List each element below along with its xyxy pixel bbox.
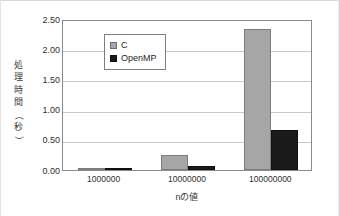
bar-chart-figure: 処 理 時 間 （ 秒 ） 0.000.501.001.502.002.50 C… — [0, 0, 339, 216]
y-axis-tick-label-4: 2.00 — [20, 46, 60, 55]
y-axis-tick-label-5: 2.50 — [20, 16, 60, 25]
bar-c-10000000 — [161, 155, 188, 170]
bar-group-100000000 — [244, 21, 298, 170]
y-axis-tick-label-1: 0.50 — [20, 136, 60, 145]
x-axis-tick-label-1000000: 1000000 — [62, 174, 145, 184]
bar-openmp-100000000 — [271, 130, 298, 170]
y-axis-tick-label-2: 1.00 — [20, 106, 60, 115]
x-axis-title: nの値 — [62, 192, 312, 202]
legend-swatch-c-icon — [110, 42, 117, 49]
legend-swatch-openmp-icon — [110, 55, 117, 62]
bar-openmp-1000000 — [105, 168, 132, 170]
legend-label-openmp: OpenMP — [121, 54, 157, 63]
bar-c-100000000 — [244, 29, 271, 170]
legend-item-openmp: OpenMP — [110, 52, 157, 65]
bar-openmp-10000000 — [188, 166, 215, 170]
x-axis-tick-label-100000000: 100000000 — [229, 174, 312, 184]
bar-c-1000000 — [78, 168, 105, 170]
legend-label-c: C — [121, 41, 128, 50]
y-axis-tick-label-0: 0.00 — [20, 167, 60, 176]
bar-group-10000000 — [161, 21, 215, 170]
y-axis-tick-label-3: 1.50 — [20, 76, 60, 85]
scan-edge-left — [0, 0, 1, 216]
y-axis-tick-labels: 0.000.501.001.502.002.50 — [18, 0, 60, 216]
x-axis-tick-label-10000000: 10000000 — [145, 174, 228, 184]
legend-item-c: C — [110, 39, 157, 52]
bar-series-container — [63, 21, 311, 170]
plot-area — [62, 20, 312, 171]
legend: C OpenMP — [104, 34, 166, 70]
x-axis-tick-labels: 100000010000000100000000 — [62, 174, 312, 188]
